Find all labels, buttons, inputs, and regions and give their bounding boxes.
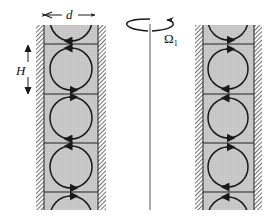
right-inner-wall [195, 25, 203, 210]
omega-label: Ω1 [164, 31, 178, 48]
cell-height-dimension [25, 45, 31, 94]
left-outer-wall [36, 25, 44, 210]
gap-width-label: d [66, 7, 73, 22]
left-gap-column [36, 0, 106, 221]
left-inner-wall [98, 25, 106, 210]
cell-height-label: H [15, 63, 26, 78]
right-outer-wall [254, 25, 262, 210]
taylor-couette-diagram: Ω1 d H [0, 0, 276, 221]
right-gap-column [195, 0, 262, 221]
left-fluid [44, 25, 98, 210]
right-fluid [203, 25, 254, 210]
